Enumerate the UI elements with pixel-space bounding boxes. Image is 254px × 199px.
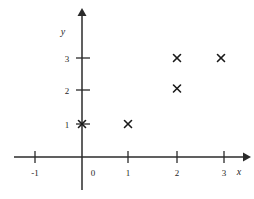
y-tick-label-2: 2 — [65, 86, 70, 96]
x-tick-label-0: 0 — [91, 168, 96, 178]
scatter-plot-figure: -1 0 1 2 3 1 2 3 x y — [0, 0, 254, 199]
data-point-1-1 — [125, 121, 132, 128]
x-axis-label: x — [236, 166, 242, 177]
x-tick-label-2: 2 — [175, 168, 180, 178]
data-point-3-3 — [218, 55, 225, 62]
data-point-2-3 — [174, 55, 181, 62]
y-axis-label: y — [60, 26, 66, 37]
plot-canvas: -1 0 1 2 3 1 2 3 x y — [0, 0, 254, 199]
data-point-2-2 — [174, 85, 181, 92]
y-axis-arrow-icon — [78, 8, 87, 16]
x-axis-arrow-icon — [243, 153, 251, 162]
y-tick-label-1: 1 — [65, 120, 70, 130]
y-tick-label-3: 3 — [65, 54, 70, 64]
x-tick-label-minus1: -1 — [31, 168, 39, 178]
x-tick-label-1: 1 — [126, 168, 131, 178]
x-tick-label-3: 3 — [222, 168, 227, 178]
